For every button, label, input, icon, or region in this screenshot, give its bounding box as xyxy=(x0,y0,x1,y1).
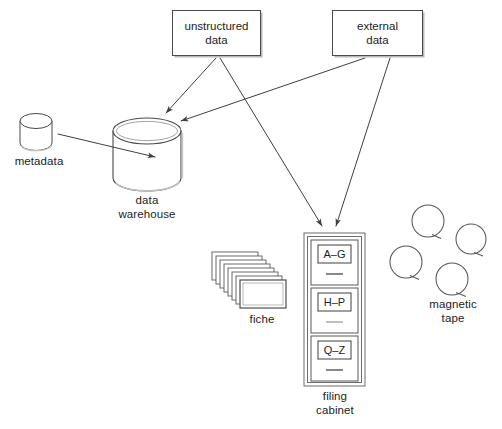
magnetic-tape-label: magnetic tape xyxy=(410,298,496,325)
arrow-unstructured-to-cabinet xyxy=(220,58,322,226)
source-box-label: unstructured data xyxy=(173,19,260,47)
metadata-cylinder-shape xyxy=(20,114,52,151)
data-warehouse-label: data warehouse xyxy=(97,194,197,221)
source-box-label: external data xyxy=(333,19,422,47)
drawer-label-q-z: Q–Z xyxy=(318,344,351,356)
arrow-unstructured-to-warehouse xyxy=(166,58,216,113)
arrow-external-to-warehouse xyxy=(181,58,365,121)
data-warehouse-cylinder-shape xyxy=(113,118,182,191)
drawer-label-a-g: A–G xyxy=(318,248,351,260)
fiche-label: fiche xyxy=(222,313,302,327)
fiche-card-stack-shape xyxy=(212,252,286,308)
magnetic-tape-reels-shape xyxy=(390,205,486,297)
metadata-label: metadata xyxy=(0,155,78,169)
source-box-unstructured-data[interactable]: unstructured data xyxy=(172,10,261,56)
filing-cabinet-label: filing cabinet xyxy=(294,390,376,417)
arrow-external-to-cabinet xyxy=(336,58,390,226)
source-box-external-data[interactable]: external data xyxy=(332,10,423,56)
drawer-label-h-p: H–P xyxy=(318,296,351,308)
diagram-vector-layer xyxy=(0,0,502,429)
diagram-canvas: unstructured data external data metadata… xyxy=(0,0,502,429)
